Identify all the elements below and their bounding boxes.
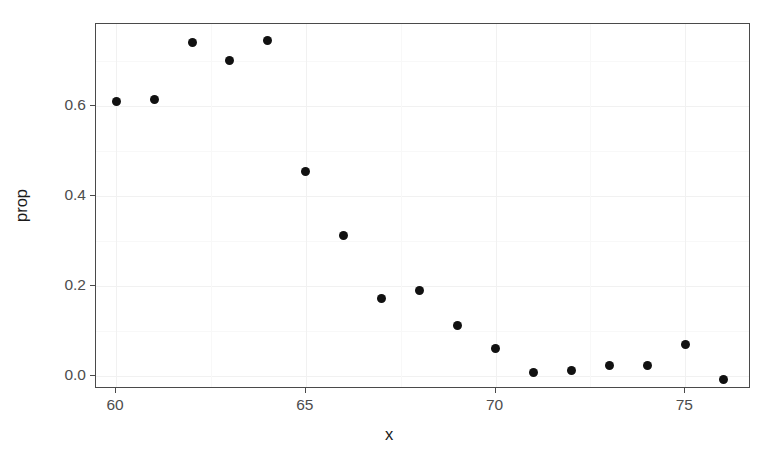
scatter-plot-figure: 606570750.00.20.40.6 x prop: [0, 0, 778, 462]
data-point: [453, 321, 462, 330]
data-point: [263, 36, 272, 45]
data-point: [567, 366, 576, 375]
gridline-minor-horizontal: [96, 241, 749, 242]
data-point: [681, 340, 690, 349]
gridline-major-vertical: [496, 24, 497, 387]
gridline-minor-vertical: [401, 24, 402, 387]
y-axis-tick-label: 0.2: [64, 276, 86, 294]
gridline-minor-horizontal: [96, 61, 749, 62]
data-point: [112, 97, 121, 106]
data-point: [225, 56, 234, 65]
y-axis-tick-label: 0.6: [64, 96, 86, 114]
x-axis-tick: [305, 388, 306, 393]
data-point: [188, 38, 197, 47]
data-point: [301, 167, 310, 176]
plot-panel: [95, 23, 750, 388]
x-axis-tick-label: 75: [676, 396, 693, 414]
x-axis-tick-label: 60: [106, 396, 123, 414]
y-axis-tick-label: 0.0: [64, 366, 86, 384]
gridline-minor-horizontal: [96, 151, 749, 152]
data-point: [529, 368, 538, 377]
data-point: [643, 361, 652, 370]
y-axis-tick: [90, 285, 95, 286]
data-point: [719, 375, 728, 384]
x-axis-tick: [115, 388, 116, 393]
gridline-minor-horizontal: [96, 331, 749, 332]
gridline-major-vertical: [685, 24, 686, 387]
x-axis-tick-label: 70: [486, 396, 503, 414]
gridline-major-horizontal: [96, 196, 749, 197]
gridline-minor-vertical: [211, 24, 212, 387]
y-axis-tick: [90, 105, 95, 106]
gridline-major-horizontal: [96, 106, 749, 107]
y-axis-tick: [90, 195, 95, 196]
gridline-minor-vertical: [590, 24, 591, 387]
data-point: [377, 294, 386, 303]
y-axis-tick: [90, 375, 95, 376]
x-axis-title: x: [0, 425, 778, 444]
data-point: [415, 286, 424, 295]
data-point: [339, 231, 348, 240]
y-axis-tick-label: 0.4: [64, 186, 86, 204]
gridline-major-vertical: [306, 24, 307, 387]
y-axis-title: prop: [10, 23, 33, 388]
data-point: [605, 361, 614, 370]
gridline-major-vertical: [116, 24, 117, 387]
gridline-major-horizontal: [96, 376, 749, 377]
plot-area: [96, 24, 749, 387]
x-axis-tick: [684, 388, 685, 393]
x-axis-tick-label: 65: [296, 396, 313, 414]
data-point: [491, 344, 500, 353]
data-point: [150, 95, 159, 104]
x-axis-tick: [495, 388, 496, 393]
